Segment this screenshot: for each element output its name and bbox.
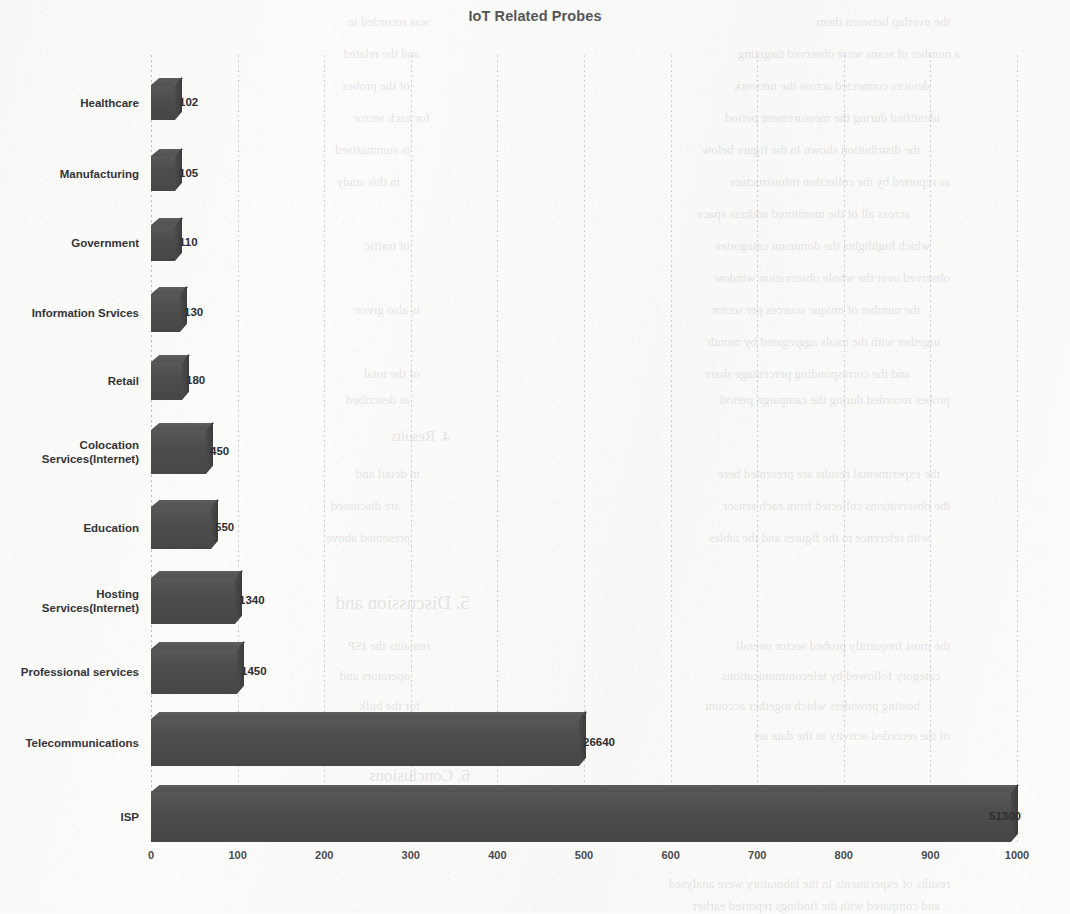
- x-tick-label: 200: [315, 849, 333, 861]
- x-tick-label: 300: [402, 849, 420, 861]
- bar-value-label: 550: [215, 521, 234, 533]
- bar: [151, 362, 182, 400]
- bar-front-face: [151, 225, 175, 261]
- category-label: Hosting Services(Internet): [0, 587, 139, 615]
- bar-top-face: [151, 500, 219, 507]
- bar: [151, 719, 579, 766]
- x-tick-label: 700: [748, 849, 766, 861]
- bar-top-face: [151, 571, 243, 578]
- bar-top-face: [151, 785, 1019, 792]
- bar: [151, 225, 175, 261]
- x-tick-label: 800: [835, 849, 853, 861]
- bar-front-face: [151, 362, 182, 400]
- bar: [151, 156, 175, 191]
- bar-value-label: 51300: [989, 810, 1021, 822]
- bar: [151, 792, 1011, 842]
- category-label: ISP: [0, 810, 139, 824]
- bar-front-face: [151, 430, 206, 474]
- bar-value-label: 450: [210, 445, 229, 457]
- bar-top-face: [151, 712, 587, 719]
- bar-value-label: 1340: [239, 594, 265, 606]
- bar-front-face: [151, 649, 237, 694]
- x-tick-label: 0: [148, 849, 154, 861]
- category-label: Colocation Services(Internet): [0, 438, 139, 466]
- bar: [151, 649, 237, 694]
- category-label: Telecommunications: [0, 736, 139, 750]
- x-tick-label: 1000: [1005, 849, 1029, 861]
- bar-value-label: 110: [179, 236, 198, 248]
- bar-front-face: [151, 792, 1011, 842]
- bar-front-face: [151, 507, 211, 549]
- x-tick-label: 900: [921, 849, 939, 861]
- bar-value-label: 1450: [241, 665, 267, 677]
- bar-front-face: [151, 294, 180, 332]
- category-label: Healthcare: [0, 96, 139, 110]
- bar: [151, 294, 180, 332]
- bar: [151, 507, 211, 549]
- bar-front-face: [151, 719, 579, 766]
- bar-value-label: 26640: [583, 736, 615, 748]
- bar: [151, 85, 175, 120]
- category-label: Retail: [0, 374, 139, 388]
- x-tick-label: 600: [661, 849, 679, 861]
- bar-top-face: [151, 642, 245, 649]
- bar-front-face: [151, 156, 175, 191]
- bar-value-label: 102: [179, 96, 198, 108]
- bar-value-label: 130: [184, 306, 203, 318]
- x-tick-label: 100: [228, 849, 246, 861]
- x-axis-tick-labels: 01002003004005006007008009001000: [151, 849, 1017, 875]
- bar: [151, 430, 206, 474]
- category-label: Manufacturing: [0, 167, 139, 181]
- bar-front-face: [151, 578, 235, 624]
- category-label: Education: [0, 521, 139, 535]
- bar-front-face: [151, 85, 175, 120]
- bar-value-label: 105: [179, 167, 198, 179]
- bar: [151, 578, 235, 624]
- x-tick-label: 400: [488, 849, 506, 861]
- bar-value-label: 180: [186, 374, 205, 386]
- x-tick-label: 500: [575, 849, 593, 861]
- category-label: Information Srvices: [0, 306, 139, 320]
- category-label: Government: [0, 236, 139, 250]
- bar-top-face: [151, 423, 214, 430]
- category-label: Professional services: [0, 665, 139, 679]
